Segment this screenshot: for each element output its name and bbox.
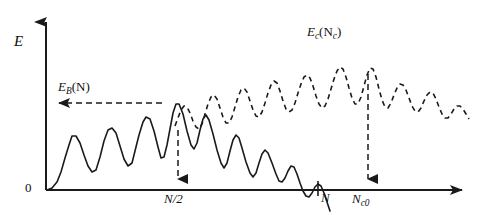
critical-energy-label-main: E xyxy=(307,24,315,39)
critical-energy-label-arg-close: ) xyxy=(337,24,341,39)
nc0-label-main: N xyxy=(352,191,361,206)
critical-energy-label: Ec(Nc) xyxy=(307,25,341,41)
binding-energy-label-main: E xyxy=(58,79,66,94)
n-half-label: N/2 xyxy=(164,192,183,205)
nc0-label-sub: c0 xyxy=(361,198,370,208)
binding-energy-curve xyxy=(47,104,330,211)
binding-energy-label-arg: (N) xyxy=(72,79,90,94)
n-label: N xyxy=(321,191,330,204)
binding-energy-label: EB(N) xyxy=(58,80,90,96)
figure-container: E 0 EB(N) Ec(Nc) N/2 N Nc0 xyxy=(0,0,493,215)
critical-energy-label-arg-open: (N xyxy=(319,24,333,39)
nc0-label: Nc0 xyxy=(352,192,370,208)
origin-label: 0 xyxy=(25,181,32,194)
plot-canvas xyxy=(0,0,493,215)
critical-energy-curve xyxy=(175,67,469,129)
y-axis-label: E xyxy=(14,34,23,49)
